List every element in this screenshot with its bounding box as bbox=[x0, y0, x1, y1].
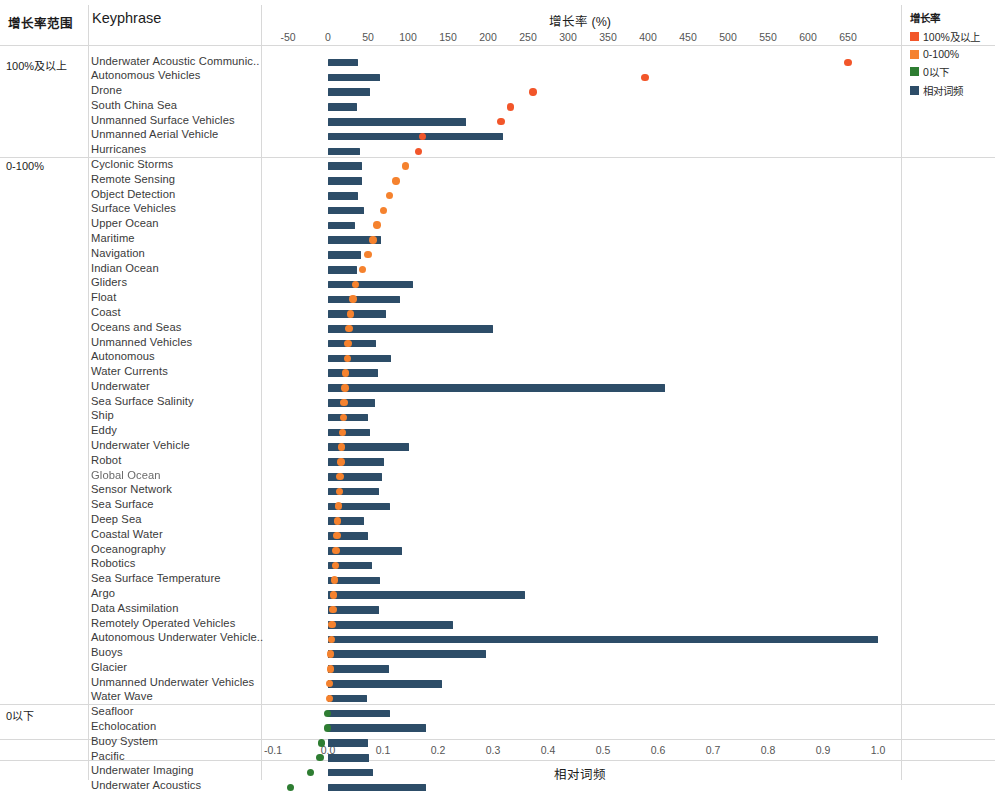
chart-row: Glacier bbox=[0, 662, 995, 677]
growth-rate-dot bbox=[364, 251, 371, 258]
growth-rate-dot bbox=[332, 562, 339, 569]
chart-row: Water Currents bbox=[0, 366, 995, 381]
growth-rate-dot bbox=[338, 443, 345, 450]
growth-rate-dot bbox=[337, 458, 344, 465]
frequency-bar bbox=[328, 310, 386, 318]
growth-rate-dot bbox=[344, 340, 351, 347]
chart-row: Sea Surface Temperature bbox=[0, 573, 995, 588]
legend-item-0[interactable]: 100%及以上 bbox=[910, 29, 995, 44]
growth-rate-dot bbox=[380, 207, 387, 214]
chart-row: Sensor Network bbox=[0, 484, 995, 499]
growth-rate-dot bbox=[352, 281, 359, 288]
growth-rate-dot bbox=[402, 162, 409, 169]
frequency-bar bbox=[328, 384, 665, 392]
chart-row: Underwater Imaging bbox=[0, 765, 995, 780]
row-keyphrase-label: Eddy bbox=[91, 424, 117, 436]
row-keyphrase-label: Autonomous Vehicles bbox=[91, 69, 201, 81]
legend-item-label: 相对词频 bbox=[923, 83, 963, 98]
row-keyphrase-label: Pacific bbox=[91, 750, 125, 762]
row-keyphrase-label: Sensor Network bbox=[91, 483, 172, 495]
top-axis-tick: 150 bbox=[439, 31, 457, 43]
legend-item-label: 0-100% bbox=[923, 48, 959, 60]
legend-items: 100%及以上0-100%0以下相对词频 bbox=[910, 29, 995, 98]
growth-rate-dot bbox=[328, 621, 335, 628]
chart-row: Hurricanes bbox=[0, 144, 995, 159]
frequency-bar bbox=[328, 680, 442, 688]
frequency-bar bbox=[328, 192, 358, 200]
chart-row: Underwater Vehicle bbox=[0, 440, 995, 455]
row-keyphrase-label: Water Currents bbox=[91, 365, 168, 377]
row-keyphrase-label: Float bbox=[91, 291, 116, 303]
chart-row: Data Assimilation bbox=[0, 603, 995, 618]
growth-rate-dot bbox=[327, 665, 334, 672]
top-axis-tick: 500 bbox=[719, 31, 737, 43]
legend-item-2[interactable]: 0以下 bbox=[910, 64, 995, 79]
top-axis-tick: -50 bbox=[280, 31, 295, 43]
legend-swatch-icon bbox=[910, 32, 919, 41]
top-axis-tick: 550 bbox=[759, 31, 777, 43]
row-keyphrase-label: Coast bbox=[91, 306, 121, 318]
row-keyphrase-label: Hurricanes bbox=[91, 143, 146, 155]
chart-row: Maritime bbox=[0, 233, 995, 248]
growth-rate-dot bbox=[342, 369, 349, 376]
legend-item-3[interactable]: 相对词频 bbox=[910, 83, 995, 98]
legend: 增长率 100%及以上0-100%0以下相对词频 bbox=[910, 10, 995, 102]
chart-row: Buoy System bbox=[0, 736, 995, 751]
row-keyphrase-label: Robot bbox=[91, 454, 121, 466]
frequency-bar bbox=[328, 296, 400, 304]
frequency-bar bbox=[328, 769, 373, 777]
column-header-growth-range: 增长率范围 bbox=[8, 13, 73, 32]
row-keyphrase-label: Oceanography bbox=[91, 543, 166, 555]
top-axis-tick: 400 bbox=[639, 31, 657, 43]
frequency-bar bbox=[328, 665, 389, 673]
growth-rate-dot bbox=[329, 606, 336, 613]
chart-row: Gliders bbox=[0, 277, 995, 292]
growth-rate-dot bbox=[324, 724, 331, 731]
row-keyphrase-label: Indian Ocean bbox=[91, 262, 159, 274]
top-axis-tick: 200 bbox=[479, 31, 497, 43]
chart-row: Surface Vehicles bbox=[0, 203, 995, 218]
top-axis-tick: 250 bbox=[519, 31, 537, 43]
chart-row: Unmanned Vehicles bbox=[0, 337, 995, 352]
legend-item-1[interactable]: 0-100% bbox=[910, 48, 995, 60]
row-keyphrase-label: South China Sea bbox=[91, 99, 177, 111]
chart-row: Echolocation bbox=[0, 721, 995, 736]
top-axis-tick: 600 bbox=[799, 31, 817, 43]
group-label-2: 0以下 bbox=[6, 707, 34, 723]
chart-row: Navigation bbox=[0, 248, 995, 263]
growth-rate-dot bbox=[335, 502, 342, 509]
chart-row: Autonomous Underwater Vehicle.. bbox=[0, 632, 995, 647]
frequency-bar bbox=[328, 177, 362, 185]
growth-rate-dot bbox=[287, 784, 294, 791]
frequency-bar bbox=[328, 754, 369, 762]
chart-row: Indian Ocean bbox=[0, 263, 995, 278]
row-keyphrase-label: Water Wave bbox=[91, 690, 153, 702]
legend-swatch-icon bbox=[910, 50, 919, 59]
frequency-bar bbox=[328, 118, 466, 126]
frequency-bar bbox=[328, 281, 413, 289]
growth-rate-dot bbox=[344, 355, 351, 362]
frequency-bar bbox=[328, 784, 426, 792]
chart-row: Eddy bbox=[0, 425, 995, 440]
chart-row: Cyclonic Storms bbox=[0, 159, 995, 174]
frequency-bar bbox=[328, 340, 376, 348]
growth-rate-dot bbox=[336, 473, 343, 480]
frequency-bar bbox=[328, 621, 453, 629]
chart-row: Oceanography bbox=[0, 544, 995, 559]
growth-rate-dot bbox=[529, 88, 536, 95]
growth-rate-dot bbox=[844, 59, 851, 66]
chart-row: Global Ocean bbox=[0, 470, 995, 485]
growth-rate-dot bbox=[373, 221, 380, 228]
row-keyphrase-label: Ship bbox=[91, 409, 114, 421]
row-keyphrase-label: Buoy System bbox=[91, 735, 158, 747]
frequency-bar bbox=[328, 695, 367, 703]
row-keyphrase-label: Underwater Acoustics bbox=[91, 779, 201, 791]
frequency-bar bbox=[328, 739, 368, 747]
frequency-bar bbox=[328, 724, 426, 732]
frequency-bar bbox=[328, 369, 378, 377]
frequency-bar bbox=[328, 414, 368, 422]
group-label-1: 0-100% bbox=[6, 160, 44, 172]
chart-row: Oceans and Seas bbox=[0, 322, 995, 337]
frame-hline bbox=[0, 45, 995, 46]
growth-rate-dot bbox=[359, 266, 366, 273]
